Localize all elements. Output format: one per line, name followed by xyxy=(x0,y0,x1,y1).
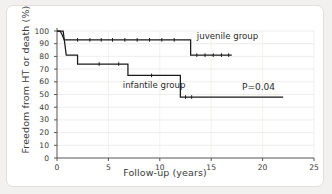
y-tick-label: 30 xyxy=(33,115,49,124)
y-axis-title: Freedom from HT or death (%) xyxy=(20,22,31,154)
kaplan-meier-figure: Freedom from HT or death (%) Follow-up (… xyxy=(7,6,325,188)
plot-area xyxy=(7,6,325,188)
x-tick-label: 15 xyxy=(204,163,218,172)
y-tick-label: 40 xyxy=(33,103,49,112)
y-tick-label: 70 xyxy=(33,65,49,74)
x-tick-label: 25 xyxy=(307,163,321,172)
p-value-annotation: P=0.04 xyxy=(242,82,275,92)
y-tick-label: 60 xyxy=(33,77,49,86)
y-tick-label: 100 xyxy=(33,27,49,36)
y-tick-label: 0 xyxy=(33,154,49,163)
series-label-infantile-group: infantile group xyxy=(123,80,186,90)
x-tick-label: 10 xyxy=(153,163,167,172)
chart-card: Freedom from HT or death (%) Follow-up (… xyxy=(6,5,324,187)
x-tick-label: 20 xyxy=(256,163,270,172)
y-tick-label: 80 xyxy=(33,52,49,61)
y-tick-label: 20 xyxy=(33,128,49,137)
series-label-juvenile-group: juvenile group xyxy=(197,31,258,41)
x-tick-label: 5 xyxy=(101,163,115,172)
y-tick-label: 50 xyxy=(33,90,49,99)
y-tick-label: 90 xyxy=(33,39,49,48)
y-tick-label: 10 xyxy=(33,141,49,150)
x-tick-label: 0 xyxy=(50,163,64,172)
